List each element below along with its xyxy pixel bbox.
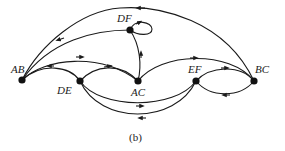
node-bc <box>250 77 257 84</box>
node-ac <box>134 77 141 84</box>
edge-bc-to-ef <box>196 81 254 95</box>
node-label-bc: BC <box>255 63 270 75</box>
node-label-df: DF <box>116 12 132 24</box>
node-label-ab: AB <box>10 63 25 75</box>
node-label-de: DE <box>56 84 72 96</box>
edge-bc-to-ab <box>22 8 254 81</box>
edge-de-to-ac <box>80 66 138 81</box>
figure-caption: (b) <box>129 131 142 144</box>
edge-de-to-ab <box>22 66 80 81</box>
node-label-ef: EF <box>187 63 202 75</box>
node-df <box>126 26 133 33</box>
edge-ac-to-df <box>130 30 141 81</box>
state-graph-diagram: AB DE DF AC EF BC (b) <box>0 0 285 151</box>
edge-df-self-loop <box>130 22 152 34</box>
edge-ef-to-bc <box>196 68 254 81</box>
node-ab <box>18 76 25 83</box>
node-label-ac: AC <box>130 86 146 98</box>
node-ef <box>192 77 199 84</box>
node-de <box>76 77 83 84</box>
